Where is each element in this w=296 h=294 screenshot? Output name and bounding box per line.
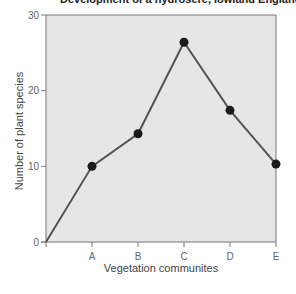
y-ticks: 0102030 — [28, 10, 46, 248]
y-tick-label: 0 — [33, 237, 39, 248]
x-tick-label: E — [273, 251, 280, 262]
data-point — [272, 160, 281, 169]
data-point — [88, 162, 97, 171]
x-tick-label: D — [226, 251, 233, 262]
y-tick-label: 30 — [28, 10, 40, 21]
y-tick-label: 20 — [28, 85, 40, 96]
y-axis-label: Number of plant species — [13, 66, 25, 196]
data-point — [226, 106, 235, 115]
plot-area — [46, 15, 276, 242]
x-tick-label: B — [135, 251, 142, 262]
x-axis-label: Vegetation communites — [46, 262, 276, 274]
line-chart: 0102030 ABCDE — [0, 0, 296, 294]
x-ticks: ABCDE — [89, 242, 280, 262]
data-point — [180, 38, 189, 47]
x-tick-label: C — [180, 251, 187, 262]
y-tick-label: 10 — [28, 161, 40, 172]
x-tick-label: A — [89, 251, 96, 262]
data-point — [134, 129, 143, 138]
